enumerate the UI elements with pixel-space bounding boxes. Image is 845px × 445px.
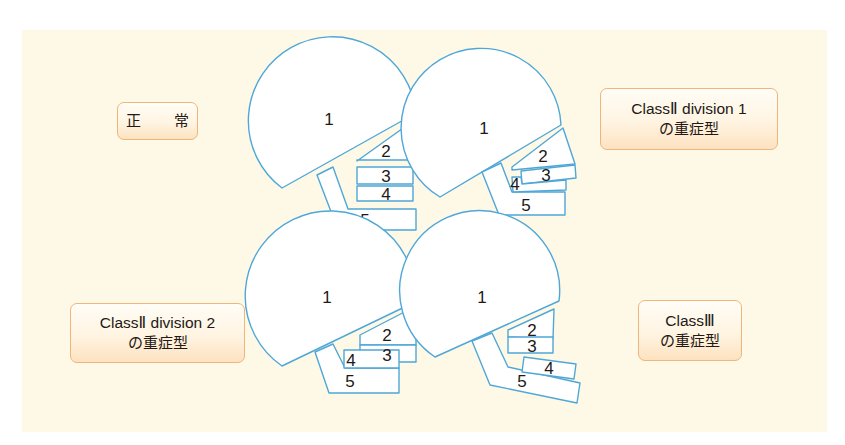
skull-diagrams: 1 2 3 4 5 1 2 3 4 5 1 2 3 4 5 1 bbox=[0, 0, 845, 445]
label-class2-division1: ClassⅡ division 1 の重症型 bbox=[600, 88, 778, 150]
part-5-label: 5 bbox=[517, 372, 526, 391]
part-3-label: 3 bbox=[382, 346, 391, 365]
label-class2-division1-subtitle: の重症型 bbox=[659, 119, 719, 140]
diagram-class2-div2: 1 2 3 4 5 bbox=[245, 211, 416, 393]
label-class3-subtitle: の重症型 bbox=[660, 331, 720, 352]
part-3-label: 3 bbox=[527, 337, 536, 356]
part-3-label: 3 bbox=[541, 166, 550, 185]
part-5-label: 5 bbox=[345, 372, 354, 391]
part-2-label: 2 bbox=[538, 147, 547, 166]
label-normal: 正 常 bbox=[117, 102, 198, 140]
diagram-class3: 1 2 3 4 5 bbox=[400, 211, 580, 403]
label-class3: ClassⅢ の重症型 bbox=[638, 300, 742, 361]
label-class3-title: ClassⅢ bbox=[665, 310, 714, 331]
part-5-label: 5 bbox=[521, 196, 530, 215]
diagram-class2-div1: 1 2 3 4 5 bbox=[401, 48, 576, 215]
part-1-label: 1 bbox=[322, 288, 331, 307]
part-1-label: 1 bbox=[477, 288, 486, 307]
part-4-label: 4 bbox=[510, 175, 519, 194]
part-4-label: 4 bbox=[381, 185, 390, 204]
part-4-label: 4 bbox=[346, 351, 355, 370]
label-normal-text: 正 常 bbox=[126, 111, 203, 132]
label-class2-division2: ClassⅡ division 2 の重症型 bbox=[70, 303, 245, 363]
part-1-label: 1 bbox=[479, 119, 488, 138]
part-2-label: 2 bbox=[382, 326, 391, 345]
part-4-label: 4 bbox=[544, 359, 553, 378]
part-1-label: 1 bbox=[324, 110, 333, 129]
label-class2-division1-title: ClassⅡ division 1 bbox=[631, 98, 746, 119]
label-class2-division2-title: ClassⅡ division 2 bbox=[100, 312, 215, 333]
part-2-label: 2 bbox=[381, 142, 390, 161]
diagram-normal: 1 2 3 4 5 bbox=[248, 37, 416, 230]
label-class2-division2-subtitle: の重症型 bbox=[128, 333, 188, 354]
part-3-label: 3 bbox=[381, 167, 390, 186]
